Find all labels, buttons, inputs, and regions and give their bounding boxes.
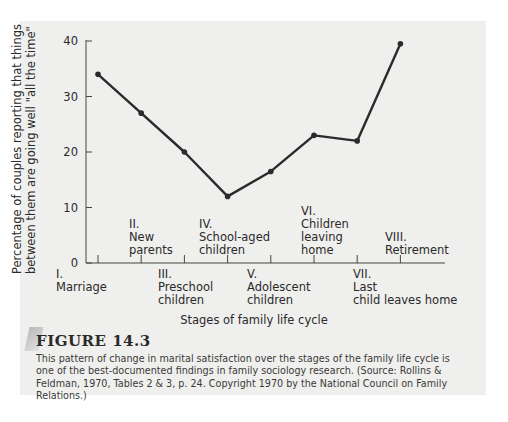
stage-label-4: IV. School-aged children [199,218,270,257]
figure-title: FIGURE 14.3 [36,332,151,350]
stage-label-1: I. Marriage [56,268,107,294]
y-axis-label-line2: between them are going well "all the tim… [24,34,38,274]
data-point [138,110,144,116]
y-tick-label: 10 [63,201,78,215]
stage-label-3: III. Preschool children [158,268,213,307]
stage-name: child leaves home [353,294,457,307]
y-axis-label: Percentage of couples reporting that thi… [10,34,38,274]
stage-name: Marriage [56,281,107,294]
data-point [311,133,317,139]
stage-name: Retirement [385,244,449,257]
stage-name: children [247,294,310,307]
data-points [95,41,403,199]
stage-label-2: II. New parents [129,218,173,257]
data-point [268,169,274,175]
data-point [225,194,231,200]
stage-name: children [158,294,213,307]
stage-name: children [199,244,270,257]
data-point [398,41,404,47]
stage-label-7: VII. Last child leaves home [353,268,457,307]
figure-caption: This pattern of change in marital satisf… [36,353,466,403]
stage-label-8: VIII. Retirement [385,231,449,257]
satisfaction-line [98,44,400,197]
y-ticks: 010203040 [63,34,92,270]
data-point [95,72,101,78]
stage-label-5: V. Adolescent children [247,268,310,307]
y-tick-label: 30 [63,90,78,104]
y-axis-label-line1: Percentage of couples reporting that thi… [10,34,24,274]
y-tick-label: 40 [63,34,78,48]
data-point [354,138,360,144]
y-tick-label: 20 [63,145,78,159]
stage-name: home [301,244,349,257]
stage-label-6: VI. Children leaving home [301,205,349,257]
stage-name: parents [129,244,173,257]
x-axis-title: Stages of family life cycle [0,313,508,327]
data-point [182,149,188,155]
